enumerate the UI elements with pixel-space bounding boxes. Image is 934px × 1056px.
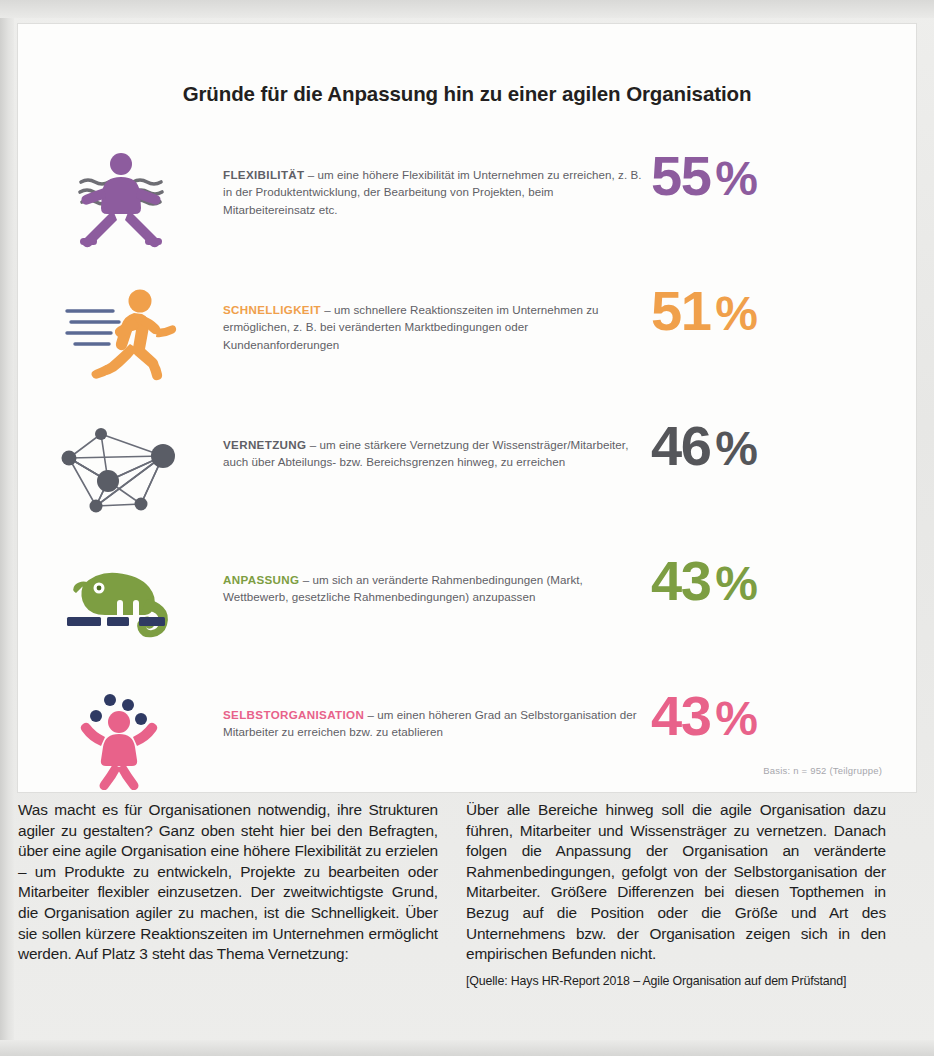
article-paragraph-left: Was macht es für Organisationen notwendi… bbox=[18, 800, 438, 965]
reason-keyword: SELBSTORGANISATION bbox=[223, 708, 364, 721]
reason-percentage-number: 51 bbox=[651, 279, 710, 342]
network-graph-icon bbox=[18, 412, 223, 522]
reason-text-anpassung: ANPASSUNG – um sich an veränderte Rahmen… bbox=[223, 547, 643, 606]
scanned-page: Gründe für die Anpassung hin zu einer ag… bbox=[0, 0, 934, 1056]
reason-keyword: VERNETZUNG bbox=[223, 438, 306, 451]
juggler-person-icon bbox=[18, 682, 223, 792]
reason-list: FLEXIBILITÄT – um eine höhere Flexibilit… bbox=[18, 142, 916, 817]
article-column-right: Über alle Bereiche hinweg soll die agile… bbox=[466, 800, 886, 1040]
reason-value-cell: 55% bbox=[643, 142, 916, 204]
basis-note: Basis: n = 952 (Teilgruppe) bbox=[763, 765, 882, 776]
article-text: Was macht es für Organisationen notwendi… bbox=[18, 800, 916, 1040]
reason-text-flexibilitaet: FLEXIBILITÄT – um eine höhere Flexibilit… bbox=[223, 142, 643, 218]
reason-value-cell: 43% bbox=[643, 682, 916, 744]
reason-description: FLEXIBILITÄT – um eine höhere Flexibilit… bbox=[223, 166, 643, 218]
reason-percentage: 55% bbox=[651, 148, 916, 204]
reason-text-schnelligkeit: SCHNELLIGKEIT – um schnellere Reaktionsz… bbox=[223, 277, 643, 353]
reason-row-anpassung: ANPASSUNG – um sich an veränderte Rahmen… bbox=[18, 547, 916, 682]
reason-text-selbstorganisation: SELBSTORGANISATION – um einen höheren Gr… bbox=[223, 682, 643, 741]
reason-percentage-number: 55 bbox=[651, 144, 710, 207]
reason-percentage: 43% bbox=[651, 688, 916, 744]
reason-percentage-number: 46 bbox=[651, 414, 710, 477]
reason-row-selbstorganisation: SELBSTORGANISATION – um einen höheren Gr… bbox=[18, 682, 916, 817]
reason-description: SCHNELLIGKEIT – um schnellere Reaktionsz… bbox=[223, 301, 643, 353]
reason-value-cell: 43% bbox=[643, 547, 916, 609]
percent-symbol: % bbox=[715, 422, 758, 475]
article-source: [Quelle: Hays HR-Report 2018 – Agile Org… bbox=[466, 974, 886, 989]
reason-percentage: 51% bbox=[651, 283, 916, 339]
chart-title: Gründe für die Anpassung hin zu einer ag… bbox=[18, 82, 916, 106]
reason-percentage: 43% bbox=[651, 553, 916, 609]
reason-percentage-number: 43 bbox=[651, 549, 710, 612]
reason-description: SELBSTORGANISATION – um einen höheren Gr… bbox=[223, 706, 643, 741]
percent-symbol: % bbox=[715, 692, 758, 745]
reason-description: VERNETZUNG – um eine stärkere Vernetzung… bbox=[223, 436, 643, 471]
percent-symbol: % bbox=[715, 287, 758, 340]
infographic-panel: Gründe für die Anpassung hin zu einer ag… bbox=[18, 24, 916, 792]
reason-keyword: ANPASSUNG bbox=[223, 573, 299, 586]
reason-percentage-number: 43 bbox=[651, 684, 710, 747]
reason-value-cell: 51% bbox=[643, 277, 916, 339]
reason-keyword: SCHNELLIGKEIT bbox=[223, 303, 321, 316]
reason-row-flexibilitaet: FLEXIBILITÄT – um eine höhere Flexibilit… bbox=[18, 142, 916, 277]
reason-text-vernetzung: VERNETZUNG – um eine stärkere Vernetzung… bbox=[223, 412, 643, 471]
page-edge-left bbox=[0, 0, 14, 1056]
reason-value-cell: 46% bbox=[643, 412, 916, 474]
article-paragraph-right: Über alle Bereiche hinweg soll die agile… bbox=[466, 800, 886, 965]
page-edge-top bbox=[0, 0, 934, 18]
percent-symbol: % bbox=[715, 152, 758, 205]
reason-description: ANPASSUNG – um sich an veränderte Rahmen… bbox=[223, 571, 643, 606]
running-person-icon bbox=[18, 277, 223, 387]
reason-percentage: 46% bbox=[651, 418, 916, 474]
percent-symbol: % bbox=[715, 557, 758, 610]
article-column-left: Was macht es für Organisationen notwendi… bbox=[18, 800, 438, 1040]
reason-row-schnelligkeit: SCHNELLIGKEIT – um schnellere Reaktionsz… bbox=[18, 277, 916, 412]
reason-row-vernetzung: VERNETZUNG – um eine stärkere Vernetzung… bbox=[18, 412, 916, 547]
stretching-person-icon bbox=[18, 142, 223, 252]
page-edge-bottom bbox=[0, 1040, 934, 1056]
reason-keyword: FLEXIBILITÄT bbox=[223, 168, 304, 181]
chameleon-icon bbox=[18, 547, 223, 657]
